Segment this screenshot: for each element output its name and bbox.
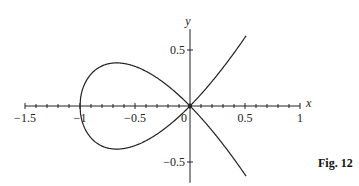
tick-labels: −1.5−1−0.500.510.5−0.5xy <box>14 14 312 169</box>
x-axis-label: x <box>305 96 312 110</box>
x-tick-label: −1 <box>74 111 87 125</box>
x-tick-label: −1.5 <box>14 111 36 125</box>
x-tick-label: 0.5 <box>238 111 253 125</box>
y-tick-label: 0.5 <box>170 43 185 57</box>
x-tick-label: 0 <box>181 111 187 125</box>
x-tick-label: −0.5 <box>124 111 146 125</box>
strophoid-plot: −1.5−1−0.500.510.5−0.5xy <box>0 0 359 186</box>
figure-label: Fig. 12 <box>318 156 353 171</box>
y-axis-label: y <box>184 14 191 28</box>
x-tick-label: 1 <box>297 111 303 125</box>
y-tick-label: −0.5 <box>163 155 185 169</box>
curve-branch-2 <box>80 36 246 149</box>
